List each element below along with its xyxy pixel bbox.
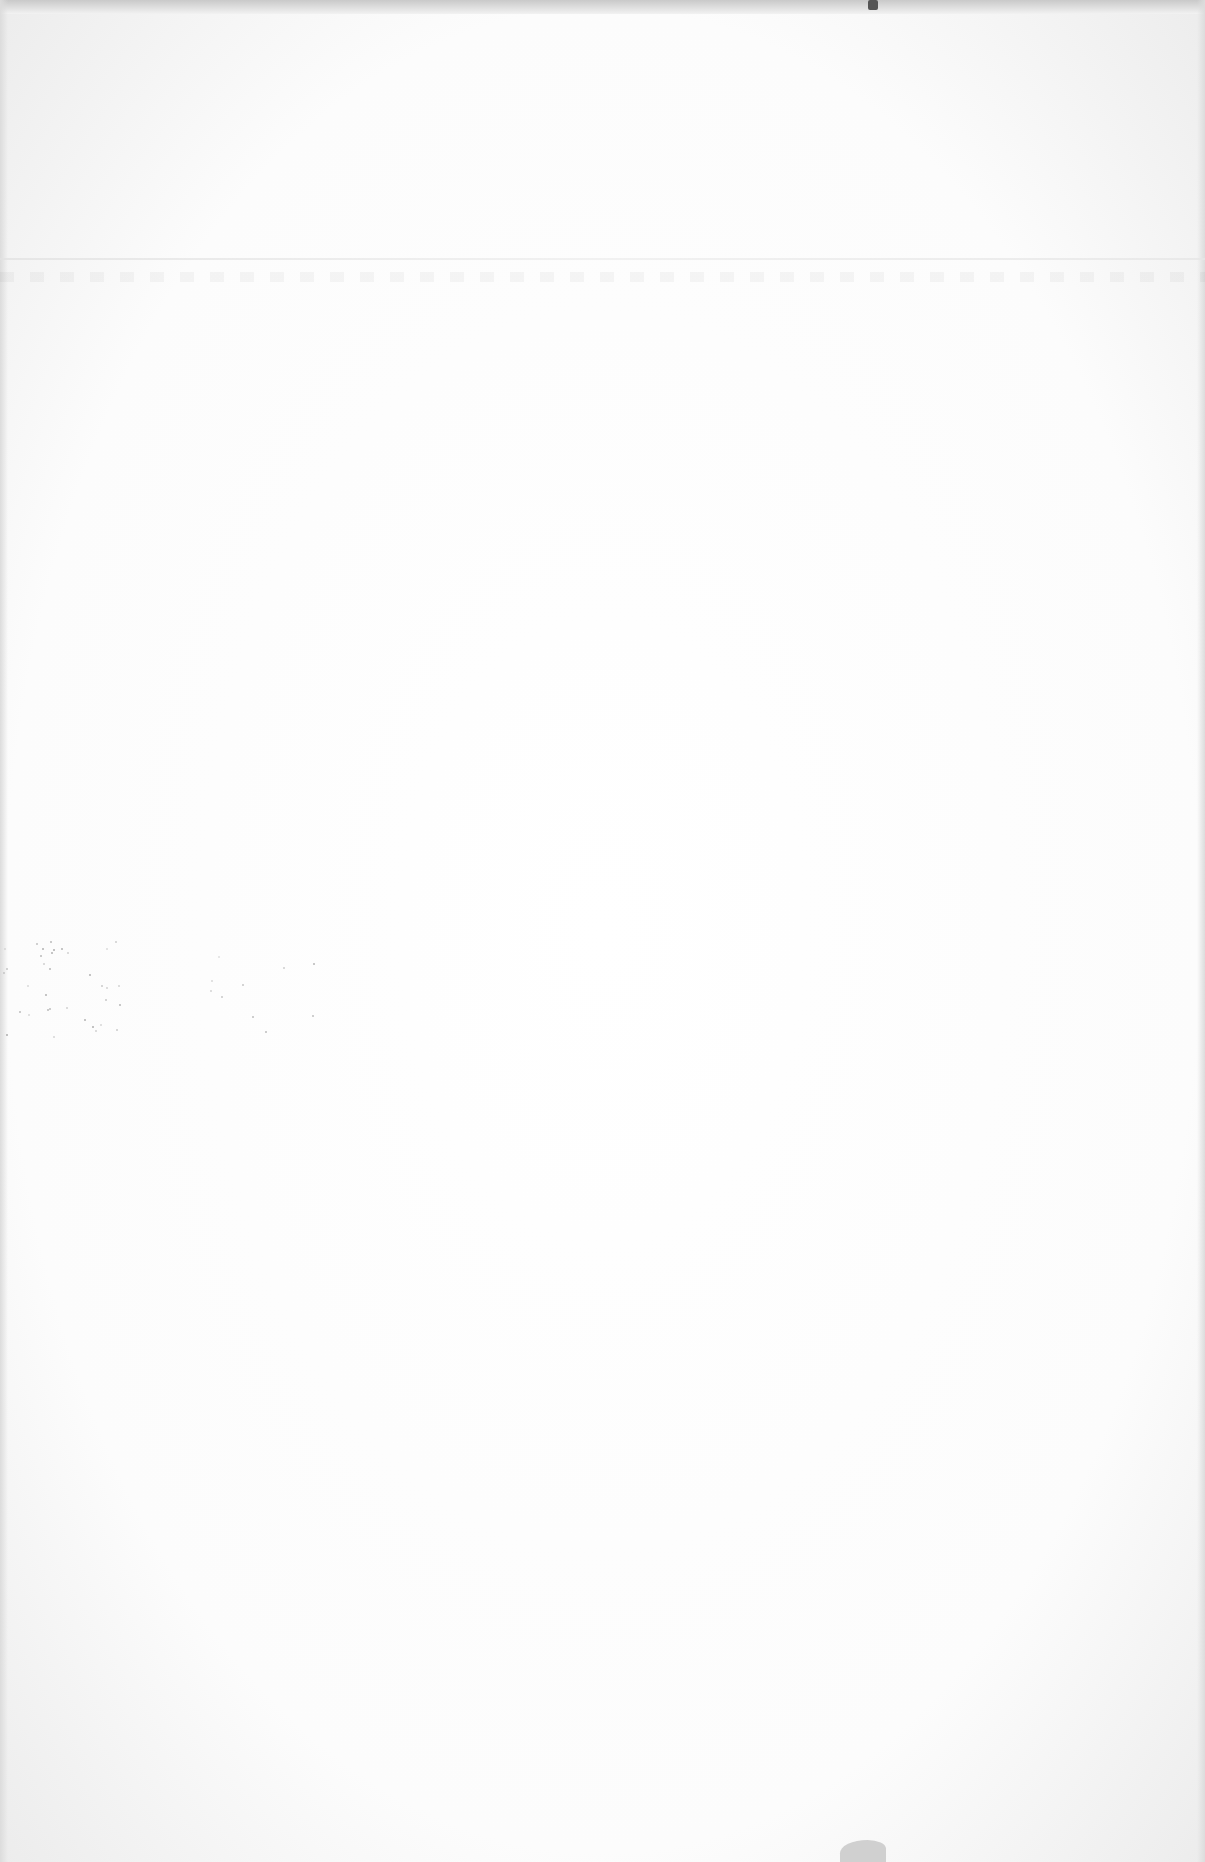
speckle [47,1009,49,1011]
speckle [45,994,47,996]
speckle [100,1024,102,1026]
speckle [28,1014,30,1016]
speckle [36,943,38,945]
speckle [6,1034,8,1036]
speckle [49,1008,51,1010]
speckle [210,990,212,992]
speckle [50,941,52,943]
bleed-through-smudge [0,272,1205,282]
speckle [118,985,120,987]
speckle [116,1029,118,1031]
speckle [42,948,44,950]
speckle [67,952,69,954]
speckle [218,956,220,958]
scan-top-edge [0,0,1205,14]
speckle [105,999,107,1001]
speckle [265,1031,267,1033]
speckle [106,987,108,989]
speckle [211,980,213,982]
speckle [84,1019,86,1021]
speckle [89,974,91,976]
speckle [53,1036,55,1038]
speckle [43,963,45,965]
speckle [119,1004,121,1006]
speckle [49,968,51,970]
speckle [27,985,29,987]
torn-paper-corner [840,1840,886,1862]
speckle [313,963,315,965]
speckle [101,985,103,987]
speckle [4,948,6,950]
speckle [312,1015,314,1017]
speckle [19,1011,21,1013]
blank-scanned-page [0,0,1205,1862]
speckle [3,972,5,974]
speckle [53,949,55,951]
speckle [66,1007,68,1009]
speckle [51,952,53,954]
speckle [221,996,223,998]
speckle [242,984,244,986]
speckle [61,948,63,950]
speckle-noise [0,940,360,1040]
scanner-line-artifact [0,258,1205,260]
speckle [106,948,108,950]
speckle [283,967,285,969]
scan-artifact-mark [868,0,878,10]
speckle [92,1026,94,1028]
speckle [40,955,42,957]
speckle [6,968,8,970]
speckle [252,1016,254,1018]
speckle [95,1030,97,1032]
speckle [115,941,117,943]
